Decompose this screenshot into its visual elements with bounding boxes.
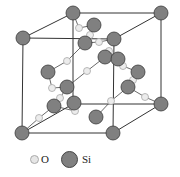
legend: O Si <box>30 149 103 169</box>
oxygen-atom <box>96 39 103 46</box>
oxygen-atom <box>76 25 83 32</box>
silicon-atom <box>67 96 81 110</box>
silicon-atom <box>87 18 101 32</box>
edge-line <box>23 13 73 38</box>
oxygen-atom <box>108 98 115 105</box>
silicon-atom <box>121 80 135 94</box>
oxygen-atom <box>36 115 43 122</box>
silicon-atom <box>111 52 125 66</box>
silicon-atom <box>78 36 92 50</box>
silicon-atom <box>16 31 30 45</box>
silicon-atom <box>98 50 112 64</box>
oxygen-atom <box>49 85 56 92</box>
silicon-atom <box>60 80 74 94</box>
silicon-atom <box>107 32 121 46</box>
silicon-atom <box>47 99 61 113</box>
silicon-atom <box>66 6 80 20</box>
silicon-atom <box>89 110 103 124</box>
legend-item-silicon: Si <box>61 151 91 168</box>
oxygen-atom <box>84 68 91 75</box>
oxygen-atom <box>64 58 71 65</box>
silicon-atom-icon <box>61 151 78 168</box>
atoms <box>15 6 168 140</box>
silicon-atom <box>154 6 168 20</box>
edge-line <box>113 104 161 133</box>
legend-label-silicon: Si <box>82 153 91 165</box>
oxygen-atom-icon <box>30 155 39 164</box>
crystal-structure-diagram <box>0 0 180 148</box>
legend-item-oxygen: O <box>30 153 49 165</box>
silicon-atom <box>106 126 120 140</box>
oxygen-atom <box>142 94 149 101</box>
edge-line <box>114 13 161 39</box>
silicon-atom <box>131 65 145 79</box>
legend-label-oxygen: O <box>41 153 49 165</box>
silicon-atom <box>15 126 29 140</box>
silicon-atom <box>41 65 55 79</box>
edge-line <box>22 38 23 133</box>
silicon-atom <box>154 97 168 111</box>
